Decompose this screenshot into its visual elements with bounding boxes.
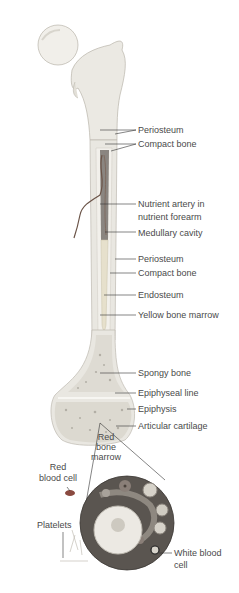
diaphysis xyxy=(74,140,117,340)
label-articular-cartilage: Articular cartilage xyxy=(138,420,208,432)
label-platelets: Platelets xyxy=(37,519,72,531)
label-spongy-bone: Spongy bone xyxy=(138,367,191,379)
label-white-blood-cell-1: White blood xyxy=(174,547,222,559)
label-epiphysis: Epiphysis xyxy=(138,403,177,415)
label-periosteum-mid: Periosteum xyxy=(138,253,184,265)
label-compact-bone-mid: Compact bone xyxy=(138,267,197,279)
label-compact-bone-top: Compact bone xyxy=(138,138,197,150)
label-nutrient-artery-2: nutrient forearm xyxy=(138,211,202,223)
label-endosteum: Endosteum xyxy=(138,289,184,301)
label-epiphyseal-line: Epiphyseal line xyxy=(138,387,199,399)
label-white-blood-cell-2: cell xyxy=(174,559,188,571)
proximal-femur xyxy=(38,25,125,140)
label-yellow-bone-marrow: Yellow bone marrow xyxy=(138,309,219,321)
label-nutrient-artery-1: Nutrient artery in xyxy=(138,198,205,210)
label-medullary-cavity: Medullary cavity xyxy=(138,227,203,239)
marrow-magnified-view xyxy=(80,476,174,570)
label-red-blood-cell-2: blood cell xyxy=(36,472,80,484)
distal-femur xyxy=(51,330,135,445)
label-red-bone-marrow-3: marrow xyxy=(88,451,124,463)
label-periosteum-top: Periosteum xyxy=(138,124,184,136)
femur-illustration xyxy=(0,0,239,593)
